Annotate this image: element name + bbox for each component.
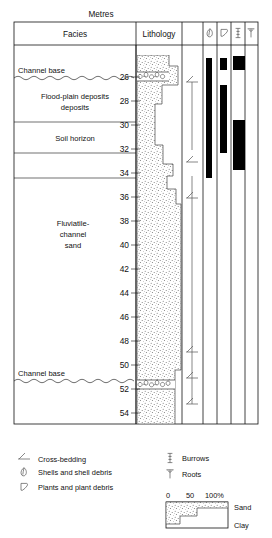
depth-tick-28: 28 bbox=[120, 96, 130, 106]
cross-bedding-icon bbox=[18, 453, 30, 459]
depth-tick-38: 38 bbox=[120, 216, 130, 226]
scale-tick-0: 0 bbox=[166, 491, 170, 500]
cross-bedding-symbol bbox=[186, 76, 198, 82]
burrow-icon bbox=[168, 453, 173, 462]
scale-key: 0 50 100% Sand Clay bbox=[166, 491, 251, 530]
shell-bed-lower bbox=[137, 380, 175, 389]
lithology-column bbox=[137, 55, 181, 424]
depth-tick-44: 44 bbox=[120, 288, 130, 298]
scale-key-sand-area bbox=[166, 502, 228, 524]
depth-tick-54: 54 bbox=[120, 408, 130, 418]
figure-title: Metres bbox=[88, 10, 113, 19]
scale-key-label-sand: Sand bbox=[234, 503, 251, 512]
depth-tick-50: 50 bbox=[120, 360, 130, 370]
scale-key-label-clay: Clay bbox=[234, 521, 249, 530]
depth-tick-40: 40 bbox=[120, 240, 130, 250]
grain-size-profile bbox=[137, 55, 181, 424]
depth-tick-26: 26 bbox=[120, 72, 130, 82]
depth-tick-32: 32 bbox=[120, 144, 130, 154]
depth-tick-36: 36 bbox=[120, 192, 130, 202]
depth-tick-30: 30 bbox=[120, 120, 130, 130]
legend-label-roots: Roots bbox=[182, 470, 202, 479]
facies-label-floodplain-line1: Flood-plain deposits bbox=[41, 92, 109, 101]
facies-label-fluviatile-line3: sand bbox=[65, 241, 81, 250]
root-icon bbox=[248, 29, 255, 38]
plant-icon bbox=[21, 483, 27, 490]
wavy-boundary-upper bbox=[14, 76, 134, 79]
root-icon bbox=[166, 470, 173, 479]
facies-label-fluviatile-line1: Fluviatile- bbox=[57, 219, 90, 228]
scale-tick-50: 50 bbox=[186, 491, 194, 500]
column-header-lithology: Lithology bbox=[143, 30, 177, 39]
shell-icon bbox=[21, 468, 26, 476]
facies-dividers bbox=[14, 122, 136, 178]
structures-column bbox=[186, 76, 198, 404]
legend-label-shells: Shells and shell debris bbox=[38, 468, 112, 477]
depth-tick-46: 46 bbox=[120, 312, 130, 322]
facies-label-fluviatile-line2: channel bbox=[60, 230, 87, 239]
depth-scale: 26 28 30 32 34 36 38 40 42 44 46 48 bbox=[120, 45, 140, 424]
column-header-facies: Facies bbox=[63, 30, 87, 39]
plant-icon bbox=[221, 29, 227, 36]
occurrence-bar-plants bbox=[220, 58, 227, 153]
legend-label-plants: Plants and plant debris bbox=[38, 483, 113, 492]
legend-right: Burrows Roots bbox=[166, 453, 209, 479]
facies-label-soil-horizon: Soil horizon bbox=[55, 134, 95, 143]
legend-label-cross-bedding: Cross-bedding bbox=[38, 455, 86, 464]
shell-icon bbox=[207, 29, 212, 37]
depth-tick-52: 52 bbox=[120, 384, 130, 394]
depth-tick-34: 34 bbox=[120, 168, 130, 178]
burrow-icon bbox=[236, 28, 241, 37]
occurrence-bar-shells bbox=[206, 58, 212, 178]
wavy-boundary-lower bbox=[14, 379, 134, 382]
facies-label-channel-base-upper: Channel base bbox=[18, 66, 65, 75]
depth-tick-42: 42 bbox=[120, 264, 130, 274]
legend-left: Cross-bedding Shells and shell debris Pl… bbox=[18, 453, 113, 492]
facies-label-channel-base-lower: Channel base bbox=[18, 369, 65, 378]
depth-tick-48: 48 bbox=[120, 336, 130, 346]
cross-bedding-symbol bbox=[186, 156, 198, 162]
legend-label-burrows: Burrows bbox=[182, 454, 209, 463]
facies-label-floodplain-line2: deposits bbox=[61, 103, 89, 112]
shell-bed-upper bbox=[137, 72, 169, 81]
scale-tick-100: 100% bbox=[205, 491, 224, 500]
occurrence-bar-roots bbox=[233, 56, 245, 170]
sedimentary-log-figure: Metres Facies Lithology bbox=[0, 0, 272, 538]
log-diagram: Metres Facies Lithology bbox=[0, 0, 272, 538]
